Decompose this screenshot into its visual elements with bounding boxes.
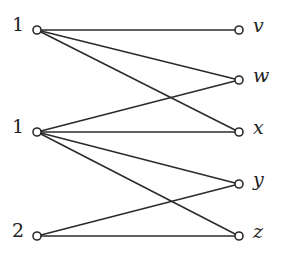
bipartite-graph: 112vwxyz xyxy=(0,0,282,257)
left-node-label-3: 2 xyxy=(12,219,24,241)
edge-L2-z xyxy=(37,132,239,236)
right-node-y xyxy=(235,180,243,188)
right-node-x xyxy=(235,128,243,136)
nodes-group xyxy=(33,26,243,240)
left-node-1 xyxy=(33,26,41,34)
right-node-label-y: y xyxy=(252,168,264,190)
edge-L1-x xyxy=(37,30,239,132)
edge-L2-y xyxy=(37,132,239,184)
right-node-label-x: x xyxy=(253,116,264,138)
right-node-v xyxy=(235,26,243,34)
left-node-label-2: 1 xyxy=(12,115,24,137)
left-node-3 xyxy=(33,232,41,240)
edge-L1-w xyxy=(37,30,239,80)
edges-group xyxy=(37,30,239,236)
edge-L3-y xyxy=(37,184,239,236)
right-node-label-w: w xyxy=(253,64,269,86)
left-node-label-1: 1 xyxy=(12,13,24,35)
right-node-label-z: z xyxy=(252,220,264,242)
right-node-label-v: v xyxy=(253,14,264,36)
right-node-w xyxy=(235,76,243,84)
left-node-2 xyxy=(33,128,41,136)
right-node-z xyxy=(235,232,243,240)
edge-L2-w xyxy=(37,80,239,132)
